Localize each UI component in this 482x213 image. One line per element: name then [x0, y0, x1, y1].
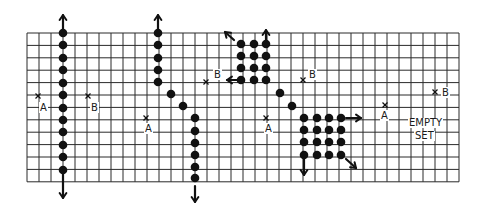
dot	[191, 139, 200, 148]
marker-label: B	[214, 69, 221, 80]
dot	[262, 64, 271, 73]
marker-label: A	[40, 102, 47, 113]
dot	[59, 153, 68, 162]
dot	[59, 41, 68, 50]
dot	[250, 76, 259, 85]
marker-a: A	[264, 116, 274, 135]
arrow-down-icon	[60, 172, 67, 198]
dot	[300, 138, 309, 147]
dot	[59, 79, 68, 88]
dot	[237, 76, 246, 85]
arrows	[60, 15, 361, 202]
arrow-down-icon	[192, 186, 199, 202]
dot	[59, 29, 68, 38]
dot	[167, 90, 176, 99]
dot	[250, 64, 259, 73]
dot	[262, 76, 271, 85]
dot	[313, 126, 322, 135]
marker-a: A	[144, 116, 154, 135]
marker-label: A	[265, 123, 272, 134]
dot	[337, 126, 346, 135]
dot	[325, 114, 334, 123]
marker-a: A	[380, 103, 389, 122]
dot	[250, 40, 259, 49]
arrow-up-icon	[60, 15, 67, 30]
dot	[300, 151, 309, 160]
dot	[59, 91, 68, 100]
marker-label: B	[442, 87, 449, 98]
dot	[313, 138, 322, 147]
dot	[337, 138, 346, 147]
dot	[59, 54, 68, 63]
dot	[237, 40, 246, 49]
dot	[237, 52, 246, 61]
arrow-right-icon	[346, 115, 361, 122]
dot	[250, 52, 259, 61]
dot	[191, 114, 200, 123]
dot	[337, 151, 346, 160]
dot	[191, 127, 200, 136]
dot	[288, 102, 297, 111]
dot	[300, 126, 309, 135]
dot	[59, 66, 68, 75]
dot	[337, 114, 346, 123]
marker-a: A	[36, 94, 49, 114]
dot	[59, 128, 68, 137]
dot	[154, 78, 163, 87]
dot	[191, 163, 200, 172]
dot	[325, 151, 334, 160]
dots	[59, 29, 346, 183]
dot	[313, 151, 322, 160]
dot	[276, 89, 285, 98]
diagram-canvas: ABABABAB EMPTY SET	[0, 0, 482, 213]
marker-label: A	[381, 110, 388, 121]
dot	[59, 166, 68, 175]
dot	[179, 102, 188, 111]
dot	[59, 141, 68, 150]
empty-set-caption-line2: SET	[414, 131, 435, 141]
arrow-up-icon	[155, 15, 162, 30]
dot	[154, 66, 163, 75]
dot	[154, 41, 163, 50]
dot	[59, 104, 68, 113]
dot	[237, 64, 246, 73]
dot	[154, 29, 163, 38]
marker-label: B	[309, 69, 316, 80]
grid-diagram: ABABABAB	[0, 0, 482, 213]
dot	[313, 114, 322, 123]
dot	[325, 126, 334, 135]
marker-label: B	[91, 102, 98, 113]
dot	[325, 138, 334, 147]
empty-set-caption-line1: EMPTY	[408, 118, 443, 128]
dot	[59, 116, 68, 125]
dot	[262, 40, 271, 49]
arrow-down-icon	[301, 158, 308, 175]
dot	[262, 52, 271, 61]
dot	[191, 174, 200, 183]
dot	[191, 151, 200, 160]
marker-b: B	[86, 94, 100, 114]
marker-label: A	[145, 123, 152, 134]
dot	[300, 114, 309, 123]
dot	[154, 54, 163, 63]
